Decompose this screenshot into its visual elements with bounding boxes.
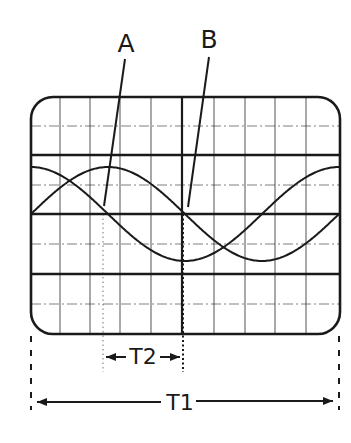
t1-label: T1 <box>165 390 193 415</box>
time-dimension-markers <box>31 214 339 410</box>
oscilloscope-diagram: A B T2 T1 <box>0 0 351 443</box>
t2-arrow-left-head <box>106 353 116 361</box>
trace-b-label: B <box>200 25 217 54</box>
trace-a-label: A <box>117 29 134 58</box>
t1-arrow-right-head <box>323 397 333 405</box>
t1-arrow-left-head <box>37 398 47 406</box>
t2-label: T2 <box>128 344 156 369</box>
t2-arrow-right-head <box>170 353 180 361</box>
trace-a-leader <box>104 59 125 206</box>
